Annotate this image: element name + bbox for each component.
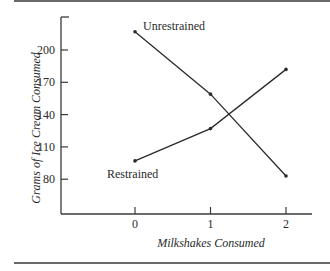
- line-chart: 80110140170200012 UnrestrainedRestrained…: [0, 0, 330, 271]
- series-label-restrained: Restrained: [107, 167, 158, 181]
- bottom-rule: [14, 262, 330, 264]
- data-point-restrained: [209, 127, 213, 131]
- x-tick-label: 1: [208, 217, 214, 231]
- data-point-unrestrained: [284, 174, 288, 178]
- y-axis-label: Grams of Ice Cream Consumed: [29, 51, 43, 204]
- series-label-unrestrained: Unrestrained: [143, 19, 205, 33]
- series-layer: UnrestrainedRestrained: [107, 19, 288, 181]
- x-axis-label: Milkshakes Consumed: [156, 236, 266, 250]
- data-point-restrained: [284, 68, 288, 72]
- data-point-unrestrained: [209, 92, 213, 96]
- data-point-unrestrained: [133, 30, 137, 34]
- series-line-unrestrained: [135, 32, 286, 176]
- y-tick-label: 80: [43, 172, 55, 186]
- x-tick-label: 2: [283, 217, 289, 231]
- series-line-restrained: [135, 69, 286, 161]
- data-point-restrained: [133, 159, 137, 163]
- x-tick-label: 0: [132, 217, 138, 231]
- axes: 80110140170200012: [37, 17, 312, 231]
